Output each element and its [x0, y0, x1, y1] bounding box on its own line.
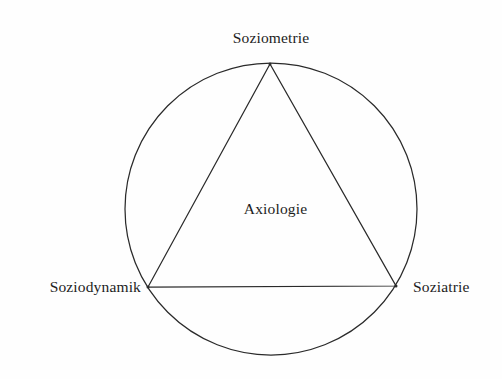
vertex-marker-top	[269, 63, 272, 66]
diagram-graphic	[0, 0, 502, 379]
vertex-label-soziodynamik: Soziodynamik	[0, 279, 141, 295]
inner-triangle	[148, 64, 396, 287]
vertex-marker-left	[147, 286, 150, 289]
diagram-canvas: Soziometrie Soziodynamik Soziatrie Axiol…	[0, 0, 502, 379]
vertex-label-soziometrie: Soziometrie	[0, 30, 502, 46]
center-label-axiologie: Axiologie	[0, 201, 502, 217]
vertex-marker-right	[395, 285, 398, 288]
vertex-label-soziatrie: Soziatrie	[413, 279, 469, 295]
